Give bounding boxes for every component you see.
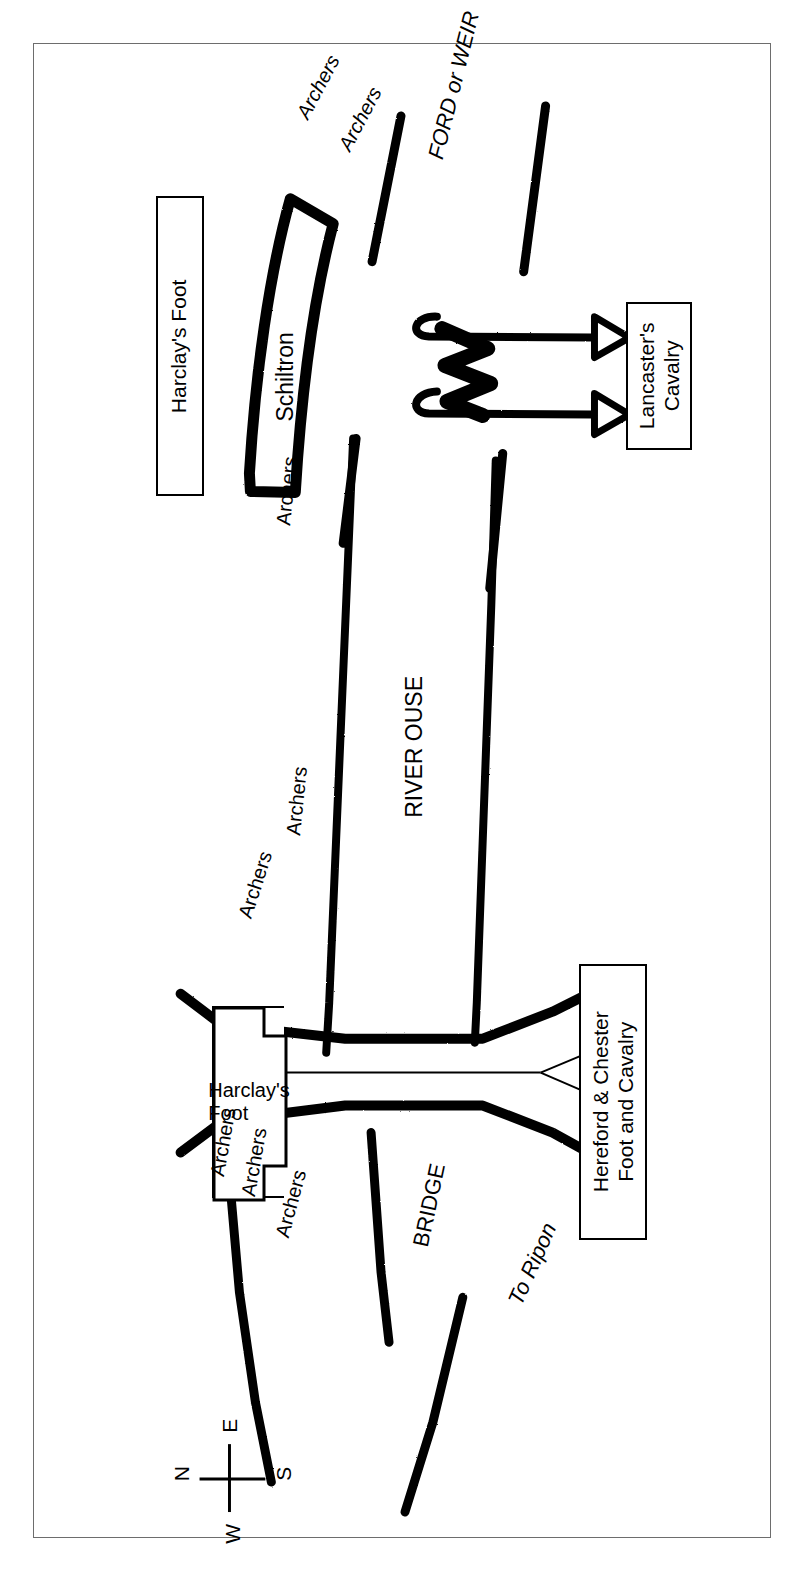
bridge-edge-east (371, 1133, 389, 1343)
ford-weir-line-upper (524, 106, 546, 272)
compass-label-south: S (272, 1467, 296, 1481)
road-to-ripon (405, 1297, 463, 1512)
map-frame: Harclay's Foot Lancaster's Cavalry Harcl… (33, 43, 771, 1538)
unit-box-lancaster-cavalry[interactable]: Lancaster's Cavalry (626, 302, 692, 450)
lancaster-cavalry-head-upper (594, 317, 629, 358)
map-page: Harclay's Foot Lancaster's Cavalry Harcl… (0, 0, 806, 1571)
compass-label-west: W (221, 1524, 245, 1544)
lancaster-cavalry-head-lower (594, 394, 629, 435)
unit-box-harclay-foot-north[interactable]: Harclay's Foot (156, 196, 204, 496)
unit-box-hereford-chester-label: Hereford & Chester Foot and Cavalry (588, 1012, 638, 1193)
unit-box-lancaster-cavalry-label: Lancaster's Cavalry (634, 323, 684, 430)
river-bank-west (326, 438, 353, 1052)
label-river-ouse: RIVER OUSE (402, 676, 428, 818)
unit-box-hereford-chester[interactable]: Hereford & Chester Foot and Cavalry (579, 964, 647, 1240)
river-bank-east (475, 460, 496, 1042)
label-schiltron: Schiltron (273, 332, 299, 421)
attack-arrow (245, 1043, 612, 1104)
compass-label-east: E (218, 1419, 242, 1433)
compass-label-north: N (170, 1466, 194, 1481)
archer-line-north-1 (372, 116, 401, 262)
compass-cross (200, 1444, 266, 1512)
unit-box-harclay-foot-north-label: Harclay's Foot (168, 279, 193, 413)
lancaster-cavalry-zigzag (442, 329, 491, 416)
